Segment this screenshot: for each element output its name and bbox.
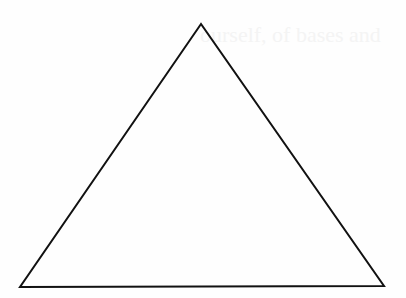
triangle-outline <box>20 24 384 287</box>
diagram-canvas: ourself, of bases and <box>0 0 406 298</box>
triangle-figure <box>0 0 406 298</box>
